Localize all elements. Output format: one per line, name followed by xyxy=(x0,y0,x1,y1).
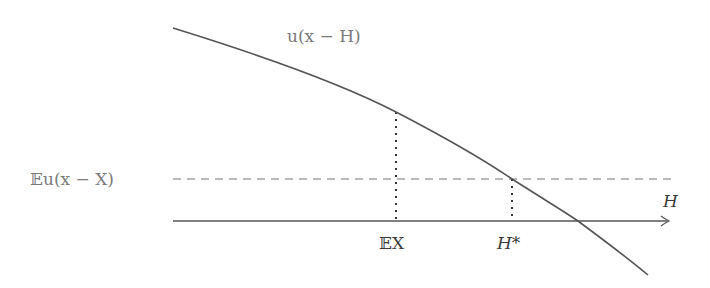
axis-label-h: H xyxy=(662,191,679,211)
expected-utility-label: 𝔼u(x − X) xyxy=(30,169,114,189)
utility-diagram: u(x − H) 𝔼u(x − X) H 𝔼X H* xyxy=(0,0,710,288)
utility-curve xyxy=(173,28,648,275)
tick-label-ex: 𝔼X xyxy=(379,233,405,253)
curve-label: u(x − H) xyxy=(287,26,361,46)
tick-label-hstar: H* xyxy=(496,233,521,253)
